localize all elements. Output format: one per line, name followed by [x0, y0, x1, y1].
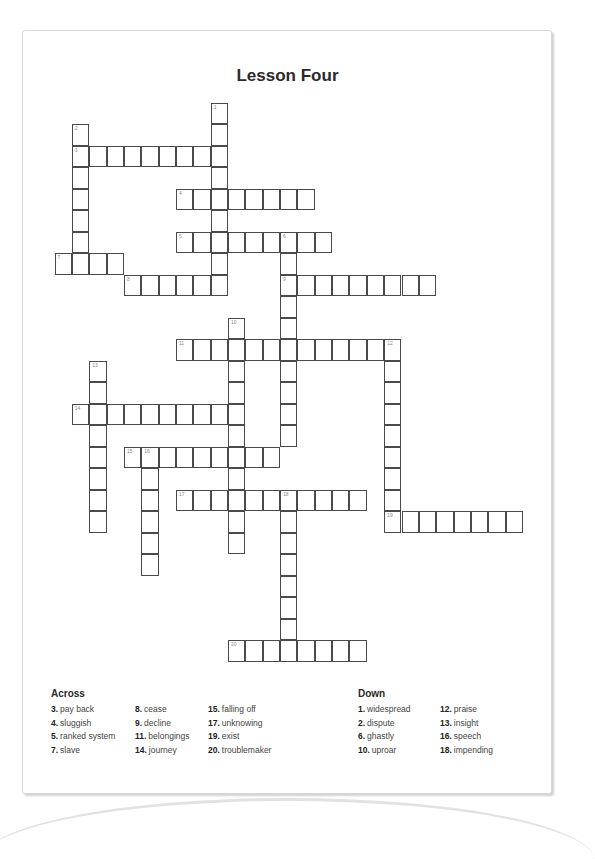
- crossword-cell[interactable]: [193, 404, 210, 426]
- crossword-cell[interactable]: [419, 275, 436, 297]
- crossword-cell[interactable]: 9: [280, 275, 297, 297]
- crossword-cell[interactable]: 6: [280, 232, 297, 254]
- crossword-cell[interactable]: [211, 275, 228, 297]
- crossword-cell[interactable]: [141, 146, 158, 168]
- crossword-cell[interactable]: [211, 146, 228, 168]
- crossword-cell[interactable]: [280, 533, 297, 555]
- crossword-cell[interactable]: [332, 640, 349, 662]
- crossword-cell[interactable]: 18: [280, 490, 297, 512]
- crossword-cell[interactable]: 7: [55, 253, 72, 275]
- crossword-cell[interactable]: [280, 640, 297, 662]
- crossword-cell[interactable]: [107, 253, 124, 275]
- crossword-cell[interactable]: [228, 490, 245, 512]
- crossword-cell[interactable]: [228, 382, 245, 404]
- crossword-cell[interactable]: [384, 404, 401, 426]
- crossword-cell[interactable]: [72, 210, 89, 232]
- crossword-cell[interactable]: [245, 189, 262, 211]
- crossword-cell[interactable]: [297, 490, 314, 512]
- crossword-cell[interactable]: [280, 404, 297, 426]
- crossword-cell[interactable]: [228, 404, 245, 426]
- crossword-cell[interactable]: [211, 339, 228, 361]
- crossword-cell[interactable]: [315, 339, 332, 361]
- crossword-cell[interactable]: [211, 253, 228, 275]
- crossword-cell[interactable]: [297, 275, 314, 297]
- crossword-cell[interactable]: [245, 232, 262, 254]
- crossword-cell[interactable]: [141, 404, 158, 426]
- crossword-cell[interactable]: [89, 447, 106, 469]
- crossword-cell[interactable]: [159, 447, 176, 469]
- crossword-cell[interactable]: 19: [384, 511, 401, 533]
- crossword-cell[interactable]: [402, 511, 419, 533]
- crossword-cell[interactable]: [263, 339, 280, 361]
- crossword-cell[interactable]: [280, 296, 297, 318]
- crossword-cell[interactable]: [488, 511, 505, 533]
- crossword-cell[interactable]: [124, 404, 141, 426]
- crossword-cell[interactable]: 1: [211, 103, 228, 125]
- crossword-cell[interactable]: [384, 447, 401, 469]
- crossword-cell[interactable]: [315, 275, 332, 297]
- crossword-cell[interactable]: [297, 189, 314, 211]
- crossword-cell[interactable]: [228, 533, 245, 555]
- crossword-cell[interactable]: 20: [228, 640, 245, 662]
- crossword-cell[interactable]: 15: [124, 447, 141, 469]
- crossword-cell[interactable]: [245, 490, 262, 512]
- crossword-cell[interactable]: 17: [176, 490, 193, 512]
- crossword-cell[interactable]: [211, 404, 228, 426]
- crossword-cell[interactable]: [193, 275, 210, 297]
- crossword-cell[interactable]: [141, 533, 158, 555]
- crossword-cell[interactable]: [211, 124, 228, 146]
- crossword-cell[interactable]: [72, 232, 89, 254]
- crossword-cell[interactable]: [280, 339, 297, 361]
- crossword-cell[interactable]: [176, 447, 193, 469]
- crossword-cell[interactable]: 12: [384, 339, 401, 361]
- crossword-cell[interactable]: [280, 189, 297, 211]
- crossword-cell[interactable]: [384, 382, 401, 404]
- crossword-cell[interactable]: [124, 146, 141, 168]
- crossword-cell[interactable]: [89, 511, 106, 533]
- crossword-cell[interactable]: 13: [89, 361, 106, 383]
- crossword-cell[interactable]: [176, 146, 193, 168]
- crossword-cell[interactable]: [72, 253, 89, 275]
- crossword-cell[interactable]: [506, 511, 523, 533]
- crossword-cell[interactable]: [454, 511, 471, 533]
- crossword-cell[interactable]: [280, 382, 297, 404]
- crossword-cell[interactable]: [367, 275, 384, 297]
- crossword-cell[interactable]: [176, 404, 193, 426]
- crossword-cell[interactable]: [211, 490, 228, 512]
- crossword-cell[interactable]: [436, 511, 453, 533]
- crossword-cell[interactable]: [419, 511, 436, 533]
- crossword-cell[interactable]: [228, 361, 245, 383]
- crossword-cell[interactable]: [280, 619, 297, 641]
- crossword-cell[interactable]: [72, 167, 89, 189]
- crossword-cell[interactable]: [280, 554, 297, 576]
- crossword-cell[interactable]: [193, 146, 210, 168]
- crossword-cell[interactable]: [193, 447, 210, 469]
- crossword-cell[interactable]: [402, 275, 419, 297]
- crossword-cell[interactable]: [349, 339, 366, 361]
- crossword-cell[interactable]: [107, 404, 124, 426]
- crossword-cell[interactable]: [211, 210, 228, 232]
- crossword-cell[interactable]: 16: [141, 447, 158, 469]
- crossword-cell[interactable]: [367, 339, 384, 361]
- crossword-cell[interactable]: [176, 275, 193, 297]
- crossword-cell[interactable]: [332, 275, 349, 297]
- crossword-cell[interactable]: [89, 404, 106, 426]
- crossword-cell[interactable]: [349, 490, 366, 512]
- crossword-cell[interactable]: [384, 361, 401, 383]
- crossword-cell[interactable]: [89, 468, 106, 490]
- crossword-cell[interactable]: [280, 597, 297, 619]
- crossword-cell[interactable]: [245, 447, 262, 469]
- crossword-cell[interactable]: [280, 576, 297, 598]
- crossword-cell[interactable]: [280, 361, 297, 383]
- crossword-cell[interactable]: [193, 490, 210, 512]
- crossword-cell[interactable]: [228, 511, 245, 533]
- crossword-cell[interactable]: [349, 640, 366, 662]
- crossword-cell[interactable]: [228, 339, 245, 361]
- crossword-cell[interactable]: 2: [72, 124, 89, 146]
- crossword-cell[interactable]: [89, 146, 106, 168]
- crossword-cell[interactable]: [89, 253, 106, 275]
- crossword-cell[interactable]: [107, 146, 124, 168]
- crossword-cell[interactable]: [315, 640, 332, 662]
- crossword-cell[interactable]: [263, 490, 280, 512]
- crossword-cell[interactable]: [263, 447, 280, 469]
